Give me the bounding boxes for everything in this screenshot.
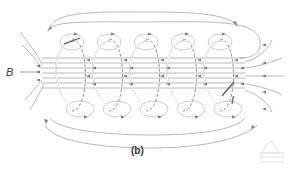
field-arrow-left	[123, 58, 127, 61]
local-loop-top	[171, 34, 195, 50]
coil-turn-front-core	[167, 41, 205, 117]
outer-field-lines	[20, 12, 284, 148]
field-arrow-left	[234, 74, 238, 77]
outer-field-line-left-4	[30, 84, 44, 110]
current-label: I	[231, 94, 234, 106]
field-arrow-left	[262, 43, 266, 46]
local-loop-bottom	[214, 101, 242, 117]
coil-turn-front	[56, 41, 94, 117]
outer-field-line-left-3	[25, 80, 42, 100]
coil-turn-front-core	[93, 41, 131, 117]
local-loop-top	[134, 34, 158, 50]
local-loop-top	[208, 34, 232, 50]
coil-turn-front-core	[56, 41, 94, 117]
local-loop-top	[97, 34, 121, 50]
coil-turn-front	[130, 41, 168, 117]
field-arrow-up	[48, 26, 52, 30]
field-arrow-left	[234, 58, 238, 61]
field-arrow-left	[197, 74, 201, 77]
field-arrow-left	[240, 66, 244, 69]
interior-field-lines	[42, 58, 245, 88]
coil-turn-front	[167, 41, 205, 117]
field-arrows	[36, 21, 266, 129]
coil-turn-front	[204, 41, 242, 117]
b-field-label: B	[6, 66, 13, 78]
field-arrow-left	[86, 58, 90, 61]
field-arrow-left	[86, 74, 90, 77]
outer-field-line-bottom-2	[50, 118, 245, 135]
coil-turn-front	[93, 41, 131, 117]
field-arrow-left	[123, 74, 127, 77]
coil-turn-front-core	[204, 41, 242, 117]
outer-field-line-top-2	[48, 22, 260, 58]
local-loop-bottom	[177, 101, 205, 117]
coil-turn-front-core	[130, 41, 168, 117]
field-arrow-left	[262, 90, 266, 93]
local-loop-bottom	[66, 101, 94, 117]
outer-field-line-left-1	[20, 32, 42, 65]
field-arrow-left	[262, 74, 266, 77]
outer-field-line-top	[50, 12, 238, 27]
field-arrow-left	[160, 58, 164, 61]
outer-field-line-right-5	[245, 90, 272, 112]
local-loop-bottom	[140, 101, 168, 117]
field-arrow-down	[233, 21, 237, 26]
field-arrow-left	[197, 58, 201, 61]
field-arrow-left	[262, 107, 266, 110]
house-watermark-icon	[258, 135, 286, 165]
figure-caption: (b)	[131, 145, 144, 156]
outer-field-line-bottom	[45, 125, 258, 148]
outer-field-line-right-4	[245, 84, 282, 95]
local-loop-top	[60, 34, 84, 50]
field-arrow-down	[44, 119, 48, 124]
field-arrow-left	[160, 74, 164, 77]
local-loop-bottom	[103, 101, 131, 117]
solenoid-diagram: B I	[0, 0, 290, 176]
field-arrow-left	[36, 78, 40, 81]
field-arrow-left	[36, 64, 40, 67]
